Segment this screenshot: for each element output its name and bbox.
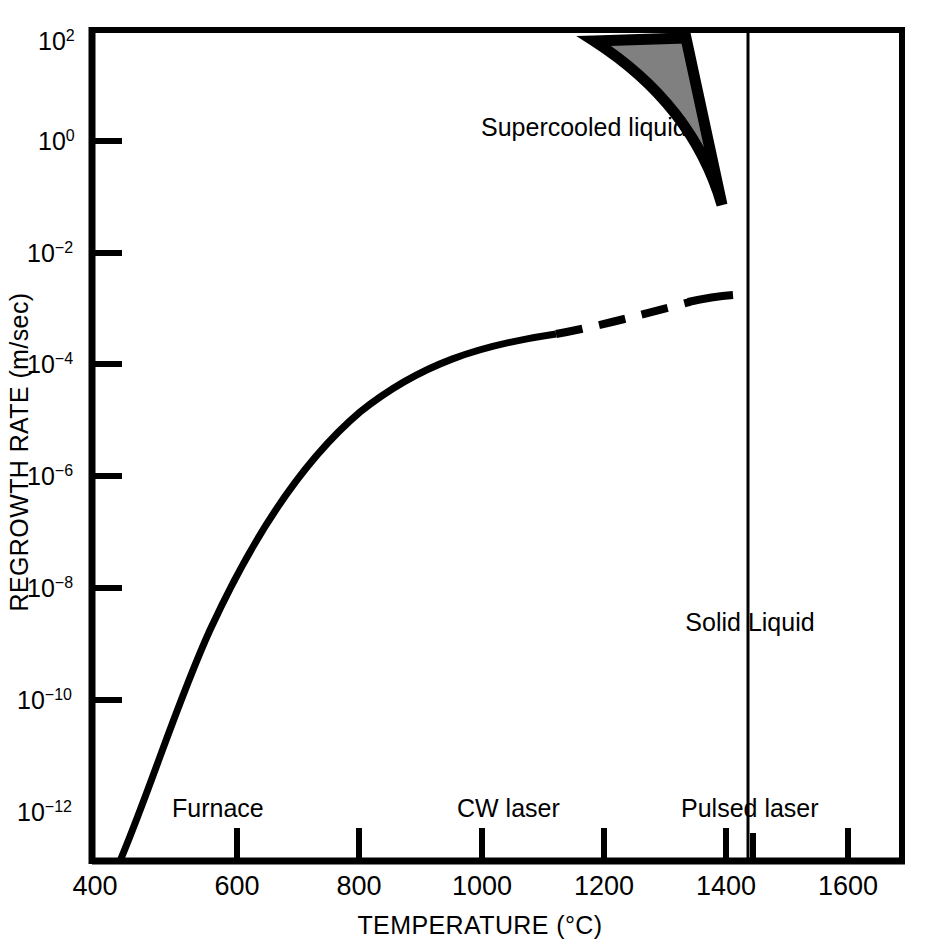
x-tick-label-800: 800 (336, 871, 381, 901)
y-tick-label-3: 10−4 (27, 350, 73, 378)
y-tick-label-1: 100 (38, 127, 75, 155)
x-tick-label-1200: 1200 (574, 871, 634, 901)
x-tick-label-1600: 1600 (818, 871, 878, 901)
supercooled-liquid-label: Supercooled liquid (481, 113, 687, 141)
x-tick-label-400: 400 (72, 871, 117, 901)
y-tick-label-4: 10−6 (27, 462, 73, 490)
y-axis-title: REGROWTH RATE (m/sec) (5, 292, 33, 611)
solid-liquid-label: Solid Liquid (685, 608, 814, 636)
pulsed-laser-label: Pulsed laser (681, 794, 819, 822)
x-tick-marks (237, 828, 848, 858)
y-tick-label-5: 10−8 (27, 574, 73, 602)
x-tick-label-1000: 1000 (452, 871, 512, 901)
x-axis-title: TEMPERATURE (°C) (357, 911, 602, 939)
y-tick-label-6: 10−10 (17, 686, 72, 714)
y-tick-label-2: 10−2 (27, 239, 73, 267)
cw-laser-label: CW laser (457, 794, 560, 822)
y-tick-label-7: 10−12 (17, 798, 72, 826)
y-tick-label-0: 102 (38, 27, 75, 55)
regrowth-curve-solid-lower (120, 334, 556, 861)
regrowth-curve-solid-upper (688, 295, 733, 302)
x-tick-label-600: 600 (214, 871, 259, 901)
x-tick-label-1400: 1400 (696, 871, 756, 901)
figure-root: 102 100 10−2 10−4 10−6 10−8 10−10 10−12 (0, 0, 928, 944)
y-tick-marks (95, 141, 122, 700)
regrowth-rate-chart: 102 100 10−2 10−4 10−6 10−8 10−10 10−12 (0, 0, 928, 944)
x-tick-labels: 400 600 800 1000 1200 1400 1600 (72, 871, 878, 901)
furnace-label: Furnace (172, 794, 264, 822)
regrowth-curve-dashed (556, 302, 690, 334)
plot-frame (89, 27, 905, 864)
